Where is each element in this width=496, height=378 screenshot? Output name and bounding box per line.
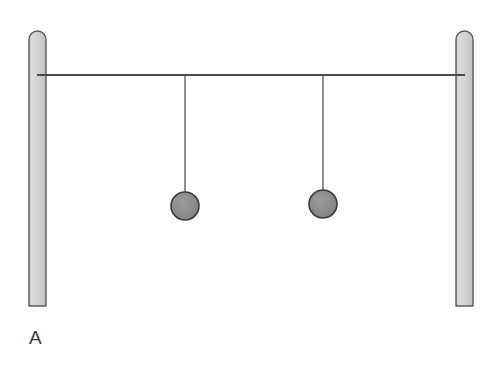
pendulum-diagram-svg [0,0,496,378]
pendulum-left [171,75,199,220]
panel-label: A [29,327,42,348]
left-support-post [29,31,46,306]
pendulum-right [309,75,337,218]
pendulum-figure-panel: A [0,0,496,378]
right-support-post [456,31,473,306]
pendulum-right-bob [309,190,337,218]
pendulum-left-bob [171,192,199,220]
